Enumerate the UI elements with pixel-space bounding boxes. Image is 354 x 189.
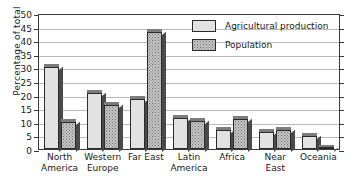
bar-front-face — [61, 122, 76, 149]
bar — [87, 93, 102, 149]
y-axis-tick-label: 50 — [21, 11, 32, 20]
x-axis-category-label: Oceania — [297, 152, 340, 174]
y-axis-tick-label: 25 — [21, 79, 32, 88]
bar — [173, 118, 188, 149]
chart-legend: Agricultural production Population — [192, 20, 328, 58]
bar — [216, 130, 231, 149]
y-axis-tick-right — [339, 124, 344, 125]
legend-label-agricultural-production: Agricultural production — [225, 21, 328, 31]
x-axis-category-label: NearEast — [254, 152, 297, 174]
legend-swatch-agricultural-production — [192, 20, 216, 32]
y-axis-tick-right — [339, 83, 344, 84]
bar-front-face — [130, 99, 145, 149]
legend-item-agricultural-production: Agricultural production — [192, 20, 328, 32]
bar-side-face — [248, 119, 252, 152]
x-axis-category-label: Far East — [124, 152, 167, 174]
bar-group — [39, 15, 82, 149]
bar-front-face — [302, 136, 317, 149]
y-axis-tick-label: 30 — [21, 65, 32, 74]
y-axis-tick-label: 45 — [21, 24, 32, 33]
y-axis-tick-label: 35 — [21, 51, 32, 60]
bar — [147, 32, 162, 149]
bar — [44, 67, 59, 149]
bar-side-face — [76, 122, 80, 152]
y-axis-tick-right — [339, 56, 344, 57]
bar-front-face — [259, 132, 274, 149]
bar-side-face — [291, 130, 295, 152]
bar-front-face — [44, 67, 59, 149]
bar — [319, 148, 334, 149]
bar — [259, 132, 274, 149]
bar — [130, 99, 145, 149]
x-axis-category-label: Africa — [211, 152, 254, 174]
bar-front-face — [233, 119, 248, 149]
y-axis-tick-right — [339, 29, 344, 30]
x-axis-category-label: NorthAmerica — [38, 152, 81, 174]
y-axis-tick-right — [339, 42, 344, 43]
bar-front-face — [276, 130, 291, 149]
legend-label-population: Population — [225, 40, 272, 50]
bar-front-face — [216, 130, 231, 149]
x-axis-category-label: LatinAmerica — [167, 152, 210, 174]
bar — [190, 121, 205, 149]
legend-swatch-population — [192, 39, 216, 51]
bar — [302, 136, 317, 149]
bar-side-face — [162, 32, 166, 152]
y-axis-tick-right — [339, 110, 344, 111]
bar-side-face — [205, 121, 209, 152]
bar-chart: Percentage of total 05101520253035404550… — [0, 0, 354, 189]
y-axis-tick-label: 10 — [21, 119, 32, 128]
bar-group — [82, 15, 125, 149]
y-axis-tick-label: 20 — [21, 92, 32, 101]
y-axis-tick-label: 0 — [26, 147, 32, 156]
x-axis-labels: NorthAmericaWesternEuropeFar EastLatinAm… — [38, 152, 340, 174]
bar — [104, 105, 119, 149]
y-axis-tick-right — [339, 69, 344, 70]
bar-front-face — [319, 147, 334, 149]
bar-front-face — [104, 105, 119, 149]
legend-item-population: Population — [192, 39, 328, 51]
y-axis-tick-right — [339, 137, 344, 138]
x-axis-category-label: WesternEurope — [81, 152, 124, 174]
bar-front-face — [173, 118, 188, 149]
bar — [61, 122, 76, 149]
y-axis-tick-right — [339, 15, 344, 16]
y-axis-tick-right — [339, 97, 344, 98]
bar-front-face — [190, 121, 205, 149]
bar-front-face — [87, 93, 102, 149]
bar — [276, 130, 291, 149]
bar-side-face — [119, 105, 123, 152]
y-axis-tick-label: 40 — [21, 38, 32, 47]
bar-front-face — [147, 32, 162, 149]
bar-group — [125, 15, 168, 149]
bar — [233, 119, 248, 149]
y-axis-tick-label: 15 — [21, 106, 32, 115]
y-axis-tick-label: 5 — [26, 133, 32, 142]
